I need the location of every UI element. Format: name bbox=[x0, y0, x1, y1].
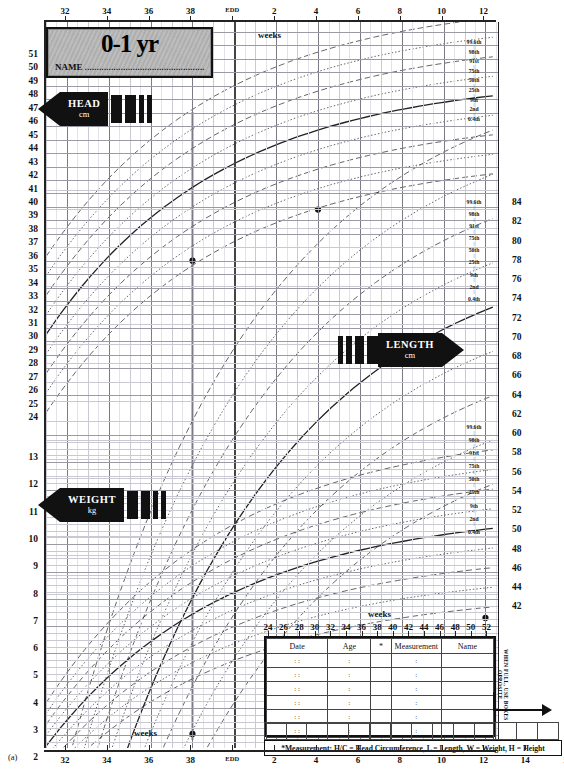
grid-line-horizontal bbox=[46, 314, 498, 315]
overflow-box[interactable] bbox=[432, 722, 454, 740]
length-axis-tick: 42 bbox=[512, 602, 522, 611]
length-axis-tick: 80 bbox=[512, 237, 522, 246]
table-cell-star[interactable] bbox=[371, 682, 391, 696]
banner-dash bbox=[346, 336, 352, 364]
bottom-week-tick: 34 bbox=[102, 755, 111, 765]
table-cell-age[interactable]: : bbox=[328, 682, 371, 696]
bottom-week-tick: 4 bbox=[314, 755, 319, 765]
table-cell-name[interactable] bbox=[441, 654, 493, 668]
head-axis-tick: 44 bbox=[29, 144, 39, 153]
name-field-row[interactable]: NAME ...................................… bbox=[55, 62, 205, 72]
table-cell-name[interactable] bbox=[441, 682, 493, 696]
name-dots: ........................................… bbox=[85, 63, 205, 72]
overflow-box[interactable] bbox=[390, 722, 412, 740]
table-row[interactable]: : ::: bbox=[267, 654, 494, 668]
table-cell-name[interactable] bbox=[441, 668, 493, 682]
table-cell-measurement[interactable]: : bbox=[391, 668, 441, 682]
table-cell-measurement[interactable]: : bbox=[391, 696, 441, 710]
head-axis-tick: 33 bbox=[29, 292, 39, 301]
table-cell-date[interactable]: : : bbox=[267, 654, 328, 668]
overflow-box[interactable] bbox=[453, 722, 475, 740]
grid-line-horizontal bbox=[46, 301, 498, 302]
head-axis-tick: 51 bbox=[29, 50, 39, 59]
bottom-week-tick: 8 bbox=[397, 755, 402, 765]
grid-line-horizontal bbox=[46, 440, 498, 441]
grid-line-horizontal bbox=[46, 140, 498, 141]
table-cell-age[interactable]: : bbox=[328, 696, 371, 710]
length-banner-label: LENGTH bbox=[386, 340, 434, 350]
head-axis-tick: 25 bbox=[29, 400, 39, 409]
table-row[interactable]: : ::: bbox=[267, 668, 494, 682]
banner-dash bbox=[367, 336, 378, 364]
overflow-box[interactable] bbox=[516, 722, 538, 740]
banner-dash bbox=[355, 336, 364, 364]
table-row[interactable]: : ::: bbox=[267, 682, 494, 696]
tick-mark bbox=[408, 631, 409, 636]
table-cell-measurement[interactable]: : bbox=[391, 682, 441, 696]
arrow-left-icon bbox=[38, 92, 60, 126]
tick-mark bbox=[65, 16, 66, 21]
head-axis-tick: 27 bbox=[29, 373, 39, 382]
table-cell-star[interactable] bbox=[371, 654, 391, 668]
top-week-tick: EDD bbox=[225, 6, 239, 13]
grid-line-horizontal bbox=[46, 572, 498, 573]
grid-line-horizontal bbox=[46, 633, 498, 634]
overflow-box[interactable] bbox=[537, 722, 559, 740]
table-cell-date[interactable]: : : bbox=[267, 668, 328, 682]
grid-line-horizontal bbox=[46, 167, 498, 168]
table-cell-star[interactable] bbox=[371, 668, 391, 682]
head-banner-text: HEAD cm bbox=[60, 92, 108, 126]
overflow-box[interactable] bbox=[495, 722, 517, 740]
weight-axis-tick: 5 bbox=[33, 671, 38, 680]
overflow-box[interactable] bbox=[327, 722, 349, 740]
head-axis-tick: 32 bbox=[29, 306, 39, 315]
overflow-box[interactable] bbox=[369, 722, 391, 740]
head-axis-tick: 42 bbox=[29, 171, 39, 180]
length-banner-text: LENGTH cm bbox=[378, 333, 442, 367]
table-cell-date[interactable]: : : bbox=[267, 696, 328, 710]
overflow-boxes-row[interactable] bbox=[264, 722, 564, 738]
tick-mark bbox=[362, 631, 363, 636]
length-axis-tick: 48 bbox=[512, 545, 522, 554]
grid-line-horizontal bbox=[46, 578, 498, 579]
grid-line-horizontal bbox=[46, 555, 498, 556]
length-axis-tick: 82 bbox=[512, 217, 522, 226]
grid-line-horizontal bbox=[46, 478, 498, 479]
grid-line-horizontal bbox=[46, 612, 498, 613]
table-cell-age[interactable]: : bbox=[328, 654, 371, 668]
table-row[interactable]: : ::: bbox=[267, 696, 494, 710]
tick-mark bbox=[483, 16, 484, 21]
head-axis-tick: 39 bbox=[29, 211, 39, 220]
banner-dash bbox=[111, 95, 122, 123]
overflow-box[interactable] bbox=[348, 722, 370, 740]
tick-mark bbox=[274, 16, 275, 21]
overflow-box[interactable] bbox=[264, 722, 287, 740]
table-cell-age[interactable]: : bbox=[328, 668, 371, 682]
table-cell-star[interactable] bbox=[371, 696, 391, 710]
table-column-header: Name bbox=[441, 639, 493, 654]
tick-mark bbox=[471, 631, 472, 636]
banner-dash bbox=[139, 95, 144, 123]
length-axis-tick: 64 bbox=[512, 391, 522, 400]
table-cell-measurement[interactable]: : bbox=[391, 654, 441, 668]
overflow-box[interactable] bbox=[306, 722, 328, 740]
overflow-box[interactable] bbox=[285, 722, 307, 740]
grid-line-horizontal bbox=[46, 619, 498, 620]
weight-axis-tick: 6 bbox=[33, 644, 38, 653]
top-week-tick: 2 bbox=[272, 6, 277, 16]
arrow-right-icon bbox=[442, 333, 464, 367]
tick-mark bbox=[268, 631, 269, 636]
length-axis-tick: 76 bbox=[512, 275, 522, 284]
top-week-tick: 8 bbox=[397, 6, 402, 16]
tick-mark bbox=[486, 631, 487, 636]
tick-mark bbox=[149, 745, 150, 750]
head-axis-tick: 24 bbox=[29, 413, 39, 422]
grid-line-horizontal bbox=[46, 86, 498, 87]
table-cell-date[interactable]: : : bbox=[267, 682, 328, 696]
overflow-box[interactable] bbox=[474, 722, 496, 740]
head-banner-label: HEAD bbox=[68, 99, 100, 109]
table-cell-name[interactable] bbox=[441, 696, 493, 710]
length-axis-tick: 70 bbox=[512, 333, 522, 342]
overflow-box[interactable] bbox=[411, 722, 433, 740]
grid-line-horizontal bbox=[46, 209, 498, 210]
